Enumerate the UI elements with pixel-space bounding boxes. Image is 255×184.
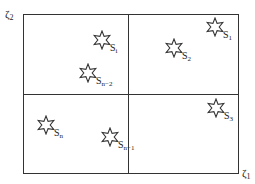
y-axis-label: ζ2 [5,9,14,22]
star-icon [164,38,184,58]
star-label-sub: n [60,132,64,140]
star-label-sub: 2 [188,55,192,63]
star-label-sub: 1 [229,34,233,42]
star-icon [78,63,98,83]
star-icon [205,17,225,37]
star-label-sub: n−2 [102,80,113,88]
star-label-s-i: Si [110,43,118,55]
star-label-s-n: Sn [54,128,63,140]
star-label-s-1: S1 [223,30,232,42]
horizontal-divider [23,94,239,95]
y-axis-label-sub: 2 [10,13,14,22]
star-label-sub: n−1 [124,144,135,152]
star-label-s-3: S3 [224,111,233,123]
x-axis-label-sub: 1 [247,172,251,181]
star-label-s-2: S2 [182,51,191,63]
star-icon [206,98,226,118]
x-axis-label: ζ1 [242,168,251,181]
star-icon [100,127,120,147]
star-label-sub: 3 [230,115,234,123]
star-label-sub: i [116,47,118,55]
star-label-s-n-2: Sn−2 [96,76,113,88]
star-label-s-n-1: Sn−1 [118,140,135,152]
star-icon [92,30,112,50]
star-icon [36,115,56,135]
